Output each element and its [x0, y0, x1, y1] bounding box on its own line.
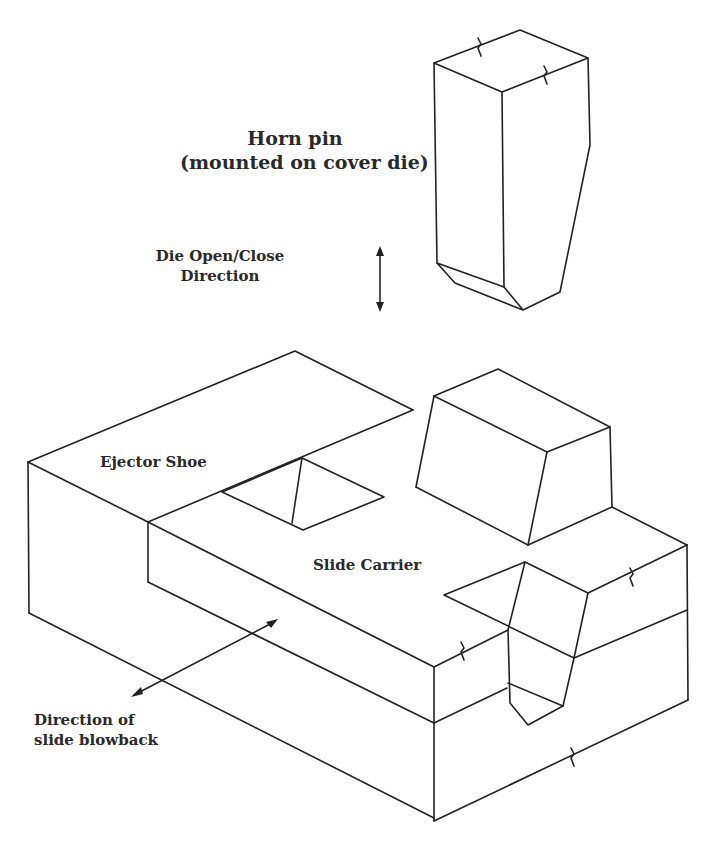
horn-pin-subtitle: (mounted on cover die) [180, 150, 410, 174]
blowback-line1: Direction of [34, 710, 158, 730]
blowback-label: Direction of slide blowback [34, 710, 158, 750]
horn-pin [434, 30, 590, 310]
die-direction-line2: Direction [140, 266, 300, 286]
horn-pin-label: Horn pin (mounted on cover die) [180, 126, 410, 174]
horn-pin-title: Horn pin [180, 126, 410, 150]
die-direction-arrow [376, 246, 384, 312]
blowback-arrow [131, 619, 278, 697]
die-direction-line1: Die Open/Close [140, 246, 300, 266]
blowback-line2: slide blowback [34, 730, 158, 750]
ejector-shoe-label: Ejector Shoe [100, 452, 207, 472]
die-direction-label: Die Open/Close Direction [140, 246, 300, 286]
slide-wedge-block [416, 369, 612, 545]
slide-carrier-label: Slide Carrier [313, 555, 421, 575]
